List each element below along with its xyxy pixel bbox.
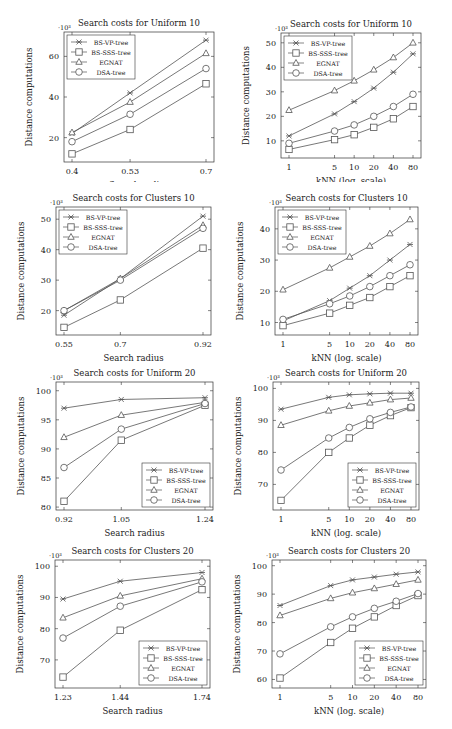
circle-marker-icon: [286, 140, 293, 147]
y-tick-label: 40: [260, 225, 270, 234]
star-marker-icon: [277, 603, 283, 608]
x-tick-label: 0.53: [121, 167, 139, 176]
legend: BS-VP-treeBS-SSS-treeEGNATDSA-tree: [59, 210, 127, 254]
legend: BS-VP-treeBS-SSS-treeEGNATDSA-tree: [278, 210, 346, 254]
x-tick-label: 10: [349, 163, 359, 172]
star-marker-icon: [328, 583, 334, 588]
x-tick-label: 1.05: [112, 515, 130, 524]
legend: BS-VP-treeBS-SSS-treeEGNATDSA-tree: [142, 463, 210, 507]
chart-title: Search costs for Clusters 20: [71, 546, 193, 556]
circle-marker-icon: [346, 424, 353, 431]
square-legend-icon: [357, 477, 363, 483]
x-tick-label: 1.74: [193, 693, 211, 702]
star-marker-icon: [410, 51, 416, 56]
series-bs-sss-tree: [61, 245, 206, 331]
star-marker-icon: [118, 397, 124, 402]
legend: BS-VP-treeBS-SSS-treeEGNATDSA-tree: [139, 641, 207, 685]
legend-label: DSA-tree: [168, 675, 197, 682]
circle-marker-icon: [60, 635, 67, 642]
chart-title: Search costs for Uniform 10: [290, 19, 412, 29]
x-axis-label: Search radius: [109, 180, 169, 182]
x-axis-label: kNN (log. scale): [314, 706, 384, 716]
square-marker-icon: [60, 674, 66, 680]
circle-marker-icon: [280, 316, 287, 323]
circle-legend-icon: [357, 497, 364, 504]
star-marker-icon: [127, 90, 133, 95]
circle-marker-icon: [117, 277, 124, 284]
series-egnat: [277, 576, 421, 617]
y-scale-label: ·10³: [275, 25, 288, 33]
y-scale-label: ·10³: [58, 24, 71, 32]
y-tick-label: 40: [41, 246, 51, 255]
legend-label: BS-SSS-tree: [91, 49, 131, 56]
legend-label: DSA-tree: [96, 69, 125, 76]
circle-legend-icon: [148, 675, 155, 682]
x-tick-label: 10: [344, 515, 354, 524]
circle-marker-icon: [202, 400, 209, 407]
x-tick-label: 20: [365, 340, 375, 349]
square-marker-icon: [331, 136, 337, 142]
y-scale-label: ·10³: [269, 199, 282, 207]
circle-marker-icon: [367, 416, 374, 423]
x-tick-label: 20: [369, 693, 379, 702]
legend-label: EGNAT: [174, 487, 198, 494]
y-axis-label: Distance computations: [24, 48, 34, 147]
circle-marker-icon: [325, 435, 332, 442]
square-marker-icon: [117, 297, 123, 303]
square-marker-icon: [387, 283, 393, 289]
series-bs-sss-tree: [69, 81, 209, 157]
x-tick-label: 5: [326, 515, 331, 524]
y-tick-label: 60: [257, 675, 267, 684]
legend-label: BS-VP-tree: [86, 214, 121, 221]
x-tick-label: 5: [332, 163, 337, 172]
legend-label: BS-SSS-tree: [379, 655, 419, 662]
x-tick-label: 80: [405, 340, 415, 349]
y-tick-label: 70: [258, 480, 268, 489]
y-tick-label: 30: [41, 276, 51, 285]
circle-legend-icon: [76, 69, 83, 76]
triangle-marker-icon: [387, 230, 393, 236]
triangle-marker-icon: [415, 576, 421, 582]
circle-marker-icon: [331, 128, 338, 135]
legend-label: BS-VP-tree: [94, 39, 129, 46]
x-tick-label: 1: [278, 515, 283, 524]
legend-label: BS-SSS-tree: [166, 477, 206, 484]
y-tick-label: 100: [35, 562, 50, 571]
y-axis-label: Distance computations: [232, 575, 242, 674]
star-marker-icon: [350, 577, 356, 582]
triangle-marker-icon: [387, 396, 393, 402]
square-legend-icon: [148, 655, 154, 661]
y-tick-label: 70: [257, 647, 267, 656]
legend: BS-VP-treeBS-SSS-treeEGNATDSA-tree: [67, 35, 135, 79]
chart-clusters10-knn: Search costs for Clusters 10·10³10203040…: [226, 185, 452, 371]
y-tick-label: 70: [40, 656, 50, 665]
circle-legend-icon: [151, 497, 158, 504]
circle-marker-icon: [408, 404, 415, 411]
square-marker-icon: [278, 497, 284, 503]
square-legend-icon: [68, 224, 74, 230]
x-tick-label: 80: [406, 515, 416, 524]
circle-marker-icon: [277, 651, 284, 658]
x-axis-label: Search radius: [103, 353, 163, 363]
circle-marker-icon: [118, 426, 125, 433]
legend-label: DSA-tree: [377, 497, 406, 504]
legend-label: DSA-tree: [313, 70, 342, 77]
circle-marker-icon: [327, 624, 334, 631]
star-marker-icon: [199, 570, 205, 575]
x-axis-label: kNN (log. scale): [311, 528, 381, 538]
y-tick-label: 80: [40, 625, 50, 634]
star-marker-icon: [61, 406, 67, 411]
star-marker-icon: [371, 575, 377, 580]
square-marker-icon: [117, 627, 123, 633]
legend-label: BS-SSS-tree: [83, 224, 123, 231]
square-marker-icon: [349, 625, 355, 631]
y-tick-label: 100: [36, 387, 51, 396]
circle-marker-icon: [127, 111, 134, 118]
x-tick-label: 0.7: [114, 340, 127, 349]
y-axis-label: Distance computations: [235, 222, 245, 321]
star-marker-icon: [60, 597, 66, 602]
x-tick-label: 1: [286, 163, 291, 172]
series-bs-sss-tree: [280, 272, 413, 328]
square-marker-icon: [203, 81, 209, 87]
legend-label: BS-SSS-tree: [372, 477, 412, 484]
